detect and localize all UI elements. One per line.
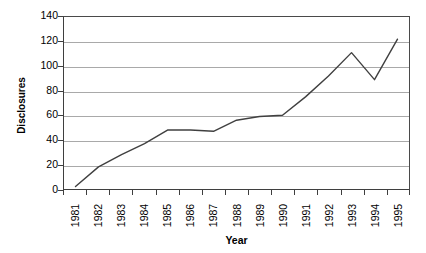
series-disclosures (64, 17, 409, 189)
x-axis-tick (86, 190, 87, 195)
y-axis-tick-label: 100 (24, 60, 58, 71)
x-axis-tick (317, 190, 318, 195)
y-axis-tick-label: 120 (24, 35, 58, 46)
x-axis-tick-label: 1981 (69, 199, 80, 233)
y-axis-tick-label: 140 (24, 10, 58, 21)
y-axis-tick-label: 20 (24, 159, 58, 170)
x-axis-tick (109, 190, 110, 195)
x-axis-tick (225, 190, 226, 195)
x-axis-tick-label: 1984 (138, 199, 149, 233)
x-axis-tick (387, 190, 388, 195)
x-axis-tick (409, 190, 410, 195)
x-axis-tick-labels: 1981198219831984198519861987198819891990… (63, 196, 410, 230)
x-axis-tick-label: 1990 (277, 199, 288, 233)
line-chart: Disclosures 020406080100120140 198119821… (0, 0, 426, 253)
x-axis-tick (202, 190, 203, 195)
x-axis-ticks (63, 190, 410, 195)
x-axis-tick (341, 190, 342, 195)
x-axis-tick-label: 1986 (185, 199, 196, 233)
x-axis-tick (156, 190, 157, 195)
x-axis-tick-label: 1985 (162, 199, 173, 233)
y-axis-tick-label: 0 (24, 184, 58, 195)
y-axis-tick-labels: 020406080100120140 (24, 0, 58, 253)
x-axis-tick (63, 190, 64, 195)
x-axis-tick-label: 1989 (254, 199, 265, 233)
y-axis-tick-label: 40 (24, 134, 58, 145)
x-axis-tick-label: 1994 (370, 199, 381, 233)
y-axis-tick-label: 60 (24, 109, 58, 120)
x-axis-tick-label: 1992 (324, 199, 335, 233)
x-axis-tick-label: 1991 (300, 199, 311, 233)
x-axis-tick (294, 190, 295, 195)
x-axis-tick-label: 1983 (115, 199, 126, 233)
x-axis-tick-label: 1995 (393, 199, 404, 233)
x-axis-tick (364, 190, 365, 195)
x-axis-tick (271, 190, 272, 195)
plot-area (63, 16, 410, 190)
x-axis-tick (179, 190, 180, 195)
x-axis-tick-label: 1987 (208, 199, 219, 233)
x-axis-tick-label: 1988 (231, 199, 242, 233)
x-axis-tick-label: 1993 (347, 199, 358, 233)
x-axis-tick (248, 190, 249, 195)
y-axis-tick-label: 80 (24, 85, 58, 96)
x-axis-tick-label: 1982 (92, 199, 103, 233)
x-axis-tick (132, 190, 133, 195)
x-axis-title: Year (63, 234, 410, 246)
